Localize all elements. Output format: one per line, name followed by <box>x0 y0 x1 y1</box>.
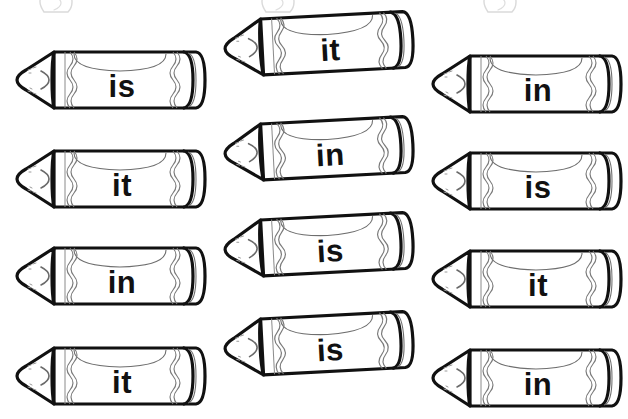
crayon-graphic: it <box>214 3 422 86</box>
crayon-cap-outline <box>184 348 193 404</box>
fragment-outline <box>484 0 516 12</box>
crayon-word-text: it <box>528 268 548 303</box>
crayon-graphic: it <box>8 143 213 215</box>
crayon-word-text: it <box>112 365 132 400</box>
crayon-card[interactable]: in <box>214 108 422 191</box>
crayon-word-text: it <box>112 168 132 203</box>
crayon-graphic: is <box>8 44 213 116</box>
crayon-cap-outline <box>600 56 609 112</box>
crayon-cap-outline <box>600 251 609 307</box>
crayon-word-text: in <box>108 265 137 300</box>
crayon-tip-fragment <box>34 0 78 14</box>
crayon-cap-outline <box>600 153 609 209</box>
worksheet-canvas: is it <box>0 0 628 419</box>
crayon-card[interactable]: in <box>424 342 628 414</box>
crayon-word-text: in <box>315 137 345 173</box>
crayon-cap-outline <box>184 52 193 108</box>
crayon-tip-fragment <box>478 0 522 14</box>
crayon-graphic: in <box>8 240 213 312</box>
crayon-graphic: is <box>214 204 422 287</box>
crayon-graphic: is <box>424 145 628 217</box>
fragment-outline <box>40 0 72 12</box>
crayon-word-text: is <box>109 69 136 104</box>
crayon-word-text: in <box>524 73 553 108</box>
crayon-card[interactable]: is <box>214 303 422 386</box>
crayon-graphic: is <box>214 303 422 386</box>
crayon-card[interactable]: it <box>8 340 213 412</box>
crayon-cap-outline <box>184 151 193 207</box>
crayon-card[interactable]: in <box>424 48 628 120</box>
crayon-graphic: it <box>8 340 213 412</box>
crayon-graphic: in <box>424 342 628 414</box>
crayon-graphic: in <box>424 48 628 120</box>
crayon-cap-outline <box>184 248 193 304</box>
crayon-card[interactable]: it <box>214 3 422 86</box>
crayon-word-text: is <box>525 170 552 205</box>
crayon-word-text: is <box>316 332 345 368</box>
crayon-word-text: is <box>316 233 345 269</box>
crayon-graphic: in <box>214 108 422 191</box>
crayon-card[interactable]: is <box>214 204 422 287</box>
crayon-tip-fragment-graphic <box>478 0 522 14</box>
crayon-card[interactable]: it <box>424 243 628 315</box>
crayon-tip-fragment-graphic <box>34 0 78 14</box>
crayon-cap-outline <box>600 350 609 406</box>
crayon-word-text: in <box>524 367 553 402</box>
crayon-card[interactable]: is <box>8 44 213 116</box>
crayon-card[interactable]: it <box>8 143 213 215</box>
crayon-card[interactable]: is <box>424 145 628 217</box>
crayon-word-text: it <box>319 32 341 68</box>
crayon-card[interactable]: in <box>8 240 213 312</box>
crayon-graphic: it <box>424 243 628 315</box>
